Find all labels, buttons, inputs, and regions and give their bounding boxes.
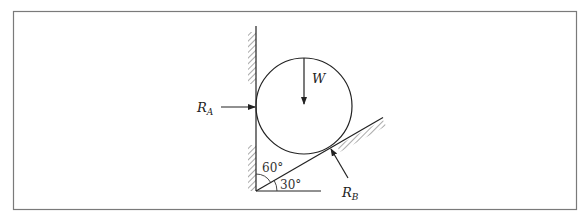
angle-arc-60 <box>256 174 271 183</box>
weight-label: W <box>312 71 327 86</box>
angle-arc-30 <box>274 181 277 192</box>
free-body-diagram: W RA RB 60° 30° <box>0 0 586 218</box>
reaction-b-arrow <box>331 149 348 178</box>
vertical-wall <box>248 26 256 191</box>
reaction-a-label: RA <box>196 100 214 117</box>
reaction-b-label: RB <box>341 185 359 202</box>
angle-label-30: 30° <box>280 178 301 192</box>
angle-label-60: 60° <box>262 161 283 175</box>
inclined-plane <box>256 118 386 192</box>
